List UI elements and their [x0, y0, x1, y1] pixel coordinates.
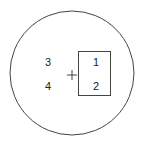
- label-2: 2: [93, 81, 99, 92]
- label-3: 3: [45, 57, 51, 68]
- label-1: 1: [93, 57, 99, 68]
- label-4: 4: [45, 81, 51, 92]
- diagram-canvas: [0, 0, 143, 146]
